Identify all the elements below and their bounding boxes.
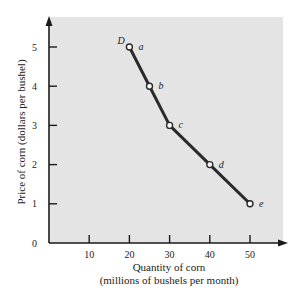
data-point-marker <box>247 201 253 207</box>
y-tick-label: 2 <box>32 159 37 170</box>
data-point-marker <box>126 44 132 50</box>
y-tick-label: 3 <box>32 120 37 131</box>
y-tick-label: 4 <box>32 81 37 92</box>
x-axis-subtitle: (millions of bushels per month) <box>100 274 239 287</box>
point-label: b <box>159 80 164 91</box>
curve-label: D <box>116 35 125 46</box>
data-point-marker <box>147 83 153 89</box>
plot-panel <box>50 17 283 243</box>
data-point-marker <box>207 162 213 168</box>
x-tick-label: 20 <box>124 249 134 260</box>
point-label: a <box>138 41 143 52</box>
y-axis-title: Price of corn (dollars per bushel) <box>15 59 28 204</box>
x-tick-label: 40 <box>205 249 215 260</box>
x-tick-label: 10 <box>84 249 94 260</box>
point-label: c <box>179 119 184 130</box>
point-label: e <box>259 198 264 209</box>
y-tick-label: 1 <box>32 198 37 209</box>
x-axis-title: Quantity of corn <box>133 261 206 273</box>
y-tick-label: 0 <box>32 238 37 249</box>
data-point-marker <box>167 122 173 128</box>
x-tick-label: 50 <box>245 249 255 260</box>
x-tick-label: 30 <box>165 249 175 260</box>
demand-curve-chart: 0123451020304050 abcdeD Quantity of corn… <box>0 0 297 298</box>
y-tick-label: 5 <box>32 42 37 53</box>
